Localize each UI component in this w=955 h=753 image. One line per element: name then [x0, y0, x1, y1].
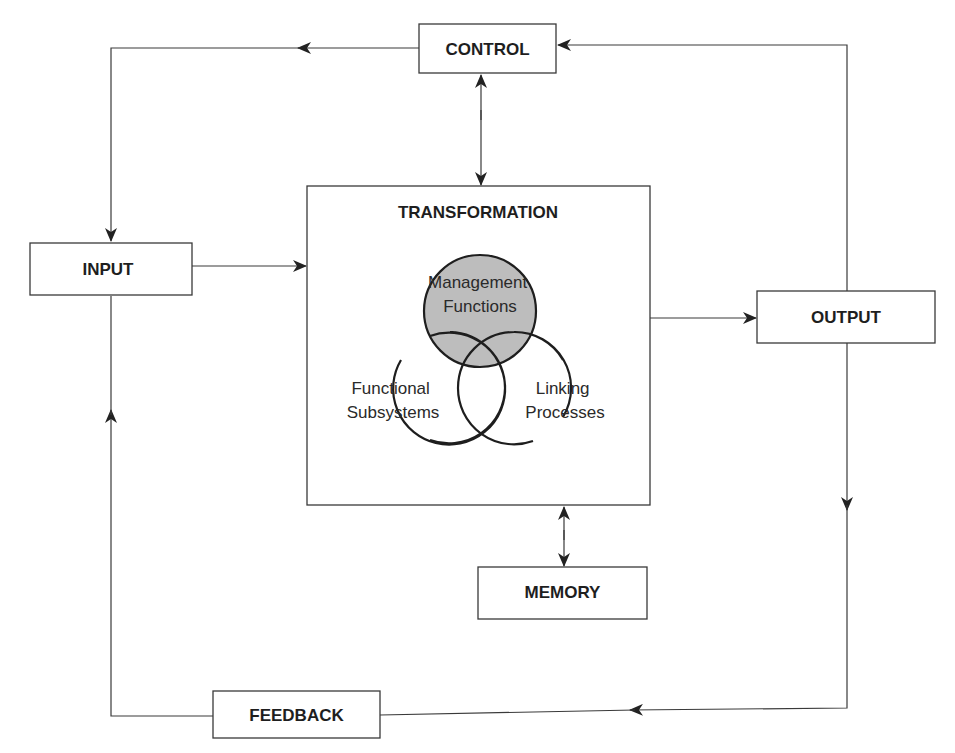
linking-line-2: Processes [525, 403, 604, 422]
input-label: INPUT [83, 260, 135, 279]
functional-line-1: Functional [351, 379, 429, 398]
systems-diagram: CONTROL INPUT OUTPUT MEMORY FEEDBACK TRA… [0, 0, 955, 753]
management-line-2: Functions [443, 297, 517, 316]
transformation-box: TRANSFORMATION Management Functions Func… [307, 186, 650, 505]
management-line-1: Management [428, 273, 528, 292]
transformation-title: TRANSFORMATION [398, 203, 558, 222]
output-box: OUTPUT [757, 291, 935, 343]
output-label: OUTPUT [811, 308, 882, 327]
feedback-label: FEEDBACK [249, 706, 344, 725]
input-box: INPUT [30, 243, 192, 295]
memory-box: MEMORY [478, 567, 647, 619]
functional-line-2: Subsystems [347, 403, 440, 422]
control-left-continue-line [111, 48, 300, 241]
control-label: CONTROL [445, 40, 529, 59]
feedback-to-input-line [111, 410, 213, 716]
feedback-box: FEEDBACK [213, 691, 380, 738]
output-down-continue-line [630, 505, 847, 710]
control-box: CONTROL [419, 24, 556, 73]
feedback-in-line [380, 710, 635, 715]
memory-label: MEMORY [525, 583, 602, 602]
linking-line-1: Linking [536, 379, 590, 398]
